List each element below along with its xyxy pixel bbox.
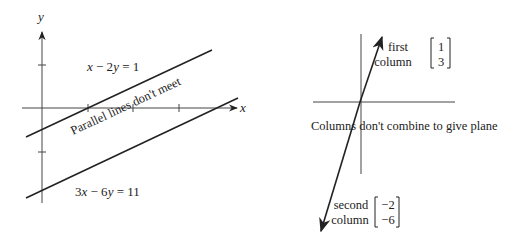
second-column-label: second column −2 −6: [331, 197, 399, 227]
bracket-right: [447, 38, 450, 68]
diagram-canvas: y x x − 2y = 1 3x − 6y = 11 Parallel lin…: [0, 0, 509, 245]
svg-text:first: first: [388, 40, 409, 54]
first-column-vector: [360, 37, 382, 102]
equation-line2: 3x − 6y = 11: [75, 184, 140, 199]
svg-text:−2: −2: [381, 198, 394, 212]
svg-text:3: 3: [438, 55, 444, 69]
svg-text:1: 1: [438, 40, 444, 54]
first-column-label: first column 1 3: [374, 38, 450, 69]
svg-text:column: column: [331, 213, 369, 227]
line-3x-minus-6y-eq-11: [26, 98, 238, 198]
column-picture-panel: first column 1 3 Columns don't combine t…: [311, 34, 498, 231]
bracket-right: [396, 197, 399, 227]
x-axis-label: x: [239, 100, 246, 115]
column-picture-annotation: Columns don't combine to give plane: [311, 119, 498, 133]
y-axis-label: y: [36, 9, 44, 24]
svg-text:−6: −6: [381, 213, 394, 227]
equation-line1: x − 2y = 1: [86, 59, 139, 74]
svg-text:second: second: [334, 198, 369, 212]
svg-text:column: column: [374, 55, 412, 69]
parallel-lines-annotation: Parallel lines don't meet: [68, 74, 183, 138]
bracket-left: [431, 38, 434, 68]
bracket-left: [375, 197, 378, 227]
row-picture-panel: y x x − 2y = 1 3x − 6y = 11 Parallel lin…: [22, 9, 246, 203]
